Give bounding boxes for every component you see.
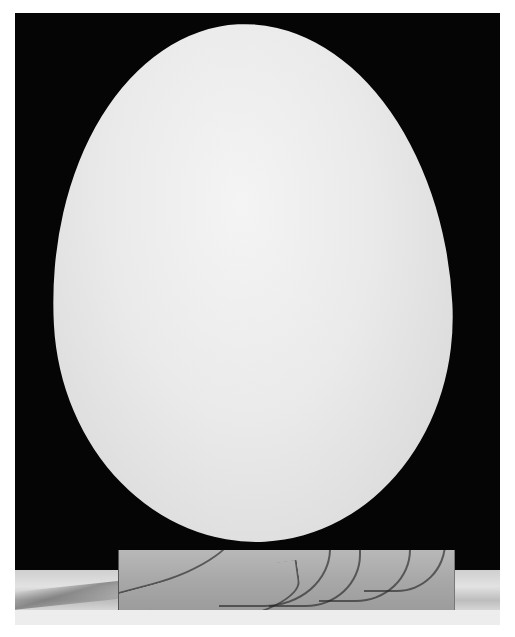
- egg: [39, 14, 465, 552]
- foreground-edge: [15, 610, 500, 625]
- wood-grain: [364, 550, 446, 592]
- photograph: [15, 13, 500, 625]
- wooden-block: [118, 550, 455, 610]
